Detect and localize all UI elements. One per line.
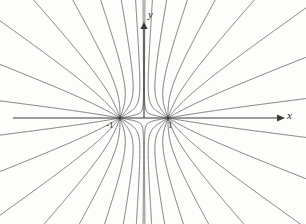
field-line <box>168 118 303 224</box>
field-line <box>168 57 306 118</box>
x-axis-arrowhead <box>277 114 285 121</box>
field-line <box>168 118 245 224</box>
y-axis-arrowhead <box>140 22 147 29</box>
field-line <box>43 118 120 224</box>
field-line <box>168 118 306 179</box>
figure-container: y x -1 1 <box>0 0 306 224</box>
tick-label-positive-one: 1 <box>168 121 173 130</box>
field-line <box>155 0 168 118</box>
field-line <box>120 118 133 224</box>
y-axis-label: y <box>148 9 153 20</box>
field-line-plot <box>0 0 306 224</box>
field-line <box>104 118 125 224</box>
field-line <box>0 118 120 172</box>
field-line <box>120 0 133 118</box>
field-line <box>120 118 140 224</box>
field-line <box>155 118 168 224</box>
field-line <box>120 0 140 118</box>
field-line <box>168 98 306 118</box>
field-line <box>0 64 120 118</box>
field-line <box>148 118 168 224</box>
field-line <box>0 118 120 135</box>
field-line <box>163 118 184 224</box>
field-line <box>168 118 306 138</box>
field-curves-group <box>0 0 306 224</box>
tick-label-negative-one: -1 <box>106 121 114 130</box>
field-line <box>0 101 120 118</box>
x-axis-label: x <box>287 110 292 121</box>
